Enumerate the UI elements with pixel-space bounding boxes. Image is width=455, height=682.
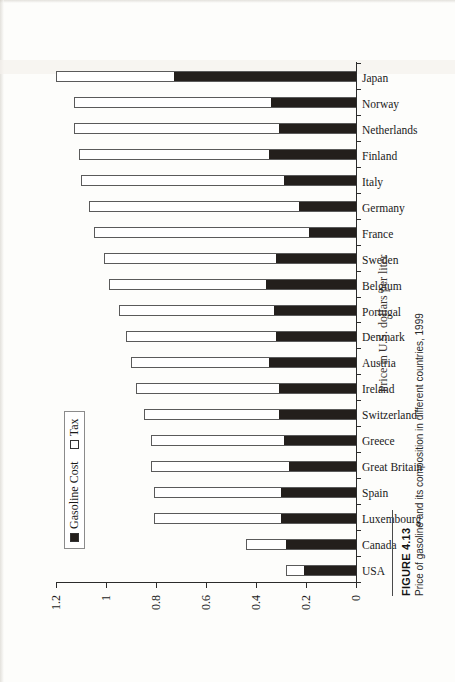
bar-segment-gasoline-cost — [266, 280, 356, 289]
value-axis-tickmark — [106, 583, 107, 588]
bar-segment-gasoline-cost — [299, 202, 357, 211]
bar-column — [56, 298, 356, 324]
bar-segment-gasoline-cost — [309, 228, 357, 237]
value-axis-tick-label: 0 — [350, 595, 362, 641]
value-axis-tickmark — [256, 583, 257, 588]
caption-rule — [392, 510, 393, 596]
stacked-bar — [79, 149, 357, 160]
figure-caption-text: Price of gasoline and its composition in… — [414, 296, 425, 596]
stacked-bar — [154, 487, 357, 498]
value-axis-tickmark — [206, 583, 207, 588]
bar-column — [56, 323, 356, 349]
category-axis-tickmark — [356, 374, 361, 375]
value-axis-tick-label: 1.2 — [50, 595, 62, 641]
stacked-bar — [74, 123, 357, 134]
stacked-bar — [104, 253, 357, 264]
bar-segment-gasoline-cost — [269, 358, 357, 367]
value-axis-tickmark — [56, 583, 57, 588]
stacked-bar — [286, 565, 356, 576]
bar-column — [56, 557, 356, 583]
bar-column — [56, 142, 356, 168]
bar-column — [56, 349, 356, 375]
bar-column — [56, 479, 356, 505]
stacked-bar — [126, 331, 356, 342]
category-axis-tickmark — [356, 115, 361, 116]
bar-segment-gasoline-cost — [274, 306, 357, 315]
value-axis-tick-label: 0.6 — [200, 595, 212, 641]
value-axis-tickmark — [306, 583, 307, 588]
stacked-bar — [144, 409, 357, 420]
category-axis-tickmark — [356, 322, 361, 323]
category-axis-tickmark — [356, 478, 361, 479]
category-axis-tickmark — [356, 89, 361, 90]
category-axis-tickmark — [356, 582, 361, 583]
category-axis-tickmark — [356, 63, 361, 64]
bar-column — [56, 168, 356, 194]
stacked-bar — [89, 201, 357, 212]
value-axis-tickmark — [156, 583, 157, 588]
category-axis-tickmark — [356, 400, 361, 401]
bar-segment-gasoline-cost — [276, 254, 356, 263]
bar-segment-gasoline-cost — [284, 176, 357, 185]
bar-segment-gasoline-cost — [269, 150, 357, 159]
category-axis-tickmark — [356, 271, 361, 272]
stacked-bar — [154, 513, 357, 524]
stacked-bar — [109, 279, 357, 290]
bar-column — [56, 505, 356, 531]
figure-number: FIGURE 4.13 — [400, 296, 412, 596]
stacked-bar — [74, 97, 357, 108]
bar-segment-gasoline-cost — [279, 410, 357, 419]
stacked-bar — [151, 435, 356, 446]
value-axis-tickmark — [356, 583, 357, 588]
bar-column — [56, 64, 356, 90]
category-axis-tickmark — [356, 219, 361, 220]
category-axis-tickmark — [356, 167, 361, 168]
value-axis-title: Price in U.S. dollars per liter — [376, 64, 391, 583]
bar-column — [56, 401, 356, 427]
stacked-bar — [246, 539, 356, 550]
stacked-bar — [81, 175, 356, 186]
bar-column — [56, 427, 356, 453]
stacked-bar — [131, 357, 356, 368]
category-axis-tickmark — [356, 297, 361, 298]
bar-segment-gasoline-cost — [289, 462, 357, 471]
bar-segment-gasoline-cost — [279, 384, 357, 393]
bar-segment-gasoline-cost — [281, 488, 356, 497]
bar-column — [56, 453, 356, 479]
bar-column — [56, 220, 356, 246]
figure-caption: FIGURE 4.13 Price of gasoline and its co… — [392, 296, 425, 596]
stacked-bar — [151, 461, 356, 472]
bar-chart: Gasoline Cost Tax 00.20.40.60.811.2 USAC… — [38, 41, 418, 641]
bar-segment-gasoline-cost — [174, 72, 357, 81]
bar-column — [56, 116, 356, 142]
value-axis-tick-label: 0.2 — [300, 595, 312, 641]
category-axis-tickmark — [356, 426, 361, 427]
bar-segment-gasoline-cost — [284, 436, 357, 445]
stacked-bar — [136, 383, 356, 394]
bar-segment-gasoline-cost — [279, 124, 357, 133]
category-axis-tickmark — [356, 245, 361, 246]
figure-container: Gasoline Cost Tax 00.20.40.60.811.2 USAC… — [0, 0, 455, 682]
value-axis-tick-label: 1 — [100, 595, 112, 641]
bar-series-area — [56, 64, 356, 583]
value-axis-tick-label: 0.4 — [250, 595, 262, 641]
category-axis-tickmark — [356, 348, 361, 349]
bar-column — [56, 375, 356, 401]
bar-column — [56, 272, 356, 298]
rotated-chart-wrapper: Gasoline Cost Tax 00.20.40.60.811.2 USAC… — [38, 41, 418, 641]
category-axis-tickmark — [356, 452, 361, 453]
bar-segment-gasoline-cost — [271, 98, 356, 107]
stacked-bar — [119, 305, 357, 316]
bar-column — [56, 90, 356, 116]
category-axis-tickmark — [356, 556, 361, 557]
bar-segment-gasoline-cost — [281, 514, 356, 523]
bar-segment-gasoline-cost — [304, 566, 357, 575]
bar-segment-gasoline-cost — [276, 332, 356, 341]
value-axis-tick-label: 0.8 — [150, 595, 162, 641]
bar-column — [56, 531, 356, 557]
bar-column — [56, 246, 356, 272]
bar-segment-gasoline-cost — [286, 540, 356, 549]
category-axis-tickmark — [356, 141, 361, 142]
category-axis-tickmark — [356, 193, 361, 194]
bar-column — [56, 194, 356, 220]
